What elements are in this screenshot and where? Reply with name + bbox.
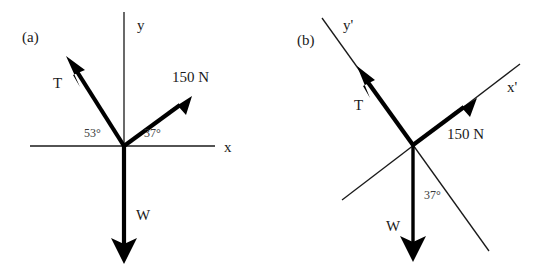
axis-label-x: x <box>224 139 232 155</box>
figure-canvas: (a) y x T 150 N W 53° 37° <box>0 0 542 278</box>
force-label-150n-a: 150 N <box>172 69 209 85</box>
angle-label-53-a: 53° <box>84 126 101 140</box>
axis-label-x-prime: x' <box>507 79 518 95</box>
panel-b: (b) y' x' T 150 N W 37° <box>297 17 520 262</box>
axis-label-y: y <box>137 17 145 33</box>
panel-a: (a) y x T 150 N W 53° 37° <box>22 12 232 264</box>
force-label-w-b: W <box>386 218 401 234</box>
panel-tag-b: (b) <box>297 32 315 49</box>
force-label-t-b: T <box>354 97 363 113</box>
axis-label-y-prime: y' <box>343 17 354 33</box>
force-label-150n-b: 150 N <box>447 126 484 142</box>
angle-label-37-b: 37° <box>424 188 441 202</box>
force-label-t-a: T <box>53 75 62 91</box>
panel-tag-a: (a) <box>22 29 39 46</box>
force-label-w-a: W <box>136 207 151 223</box>
physics-free-body-diagram-figure: (a) y x T 150 N W 53° 37° <box>0 0 542 278</box>
vector-line-t-b <box>367 81 413 145</box>
angle-label-37-a: 37° <box>144 126 161 140</box>
arrow-head-t-b <box>357 66 375 98</box>
